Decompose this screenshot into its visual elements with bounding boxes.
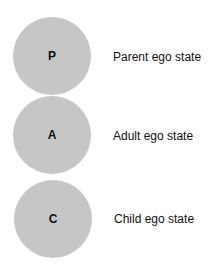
adult-label: Adult ego state: [113, 129, 193, 143]
child-letter: C: [49, 212, 58, 226]
child-circle: C: [14, 180, 92, 258]
child-label: Child ego state: [114, 212, 194, 226]
adult-circle: A: [13, 96, 91, 174]
parent-circle: P: [13, 17, 91, 95]
adult-letter: A: [48, 128, 57, 142]
parent-label: Parent ego state: [113, 50, 201, 64]
parent-letter: P: [48, 49, 56, 63]
